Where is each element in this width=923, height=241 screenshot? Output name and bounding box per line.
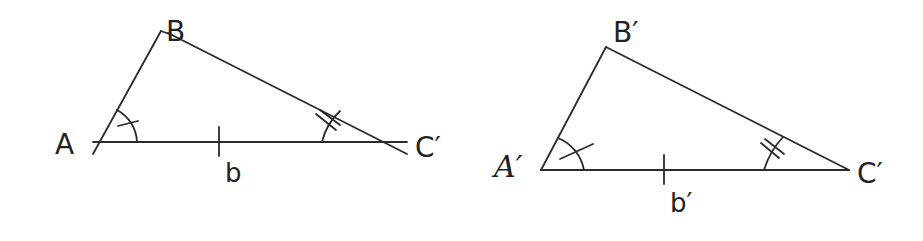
right-triangle	[541, 47, 849, 184]
angle-A'-tick	[560, 144, 593, 159]
side-B'C'	[606, 47, 849, 170]
vertex-label-B-prime: B′	[613, 19, 639, 47]
left-triangle	[93, 31, 407, 156]
side-A'B'	[541, 47, 606, 170]
side-label-b: b	[225, 160, 242, 186]
vertex-label-C: C′	[415, 134, 441, 162]
side-label-b-prime: b′	[670, 190, 692, 216]
side-BC	[168, 33, 407, 154]
vertex-label-A: A	[55, 131, 74, 159]
side-AB	[93, 31, 161, 154]
diagram-canvas	[0, 0, 923, 241]
angle-C'-tick-2	[765, 139, 784, 154]
angle-A-tick	[118, 121, 138, 126]
vertex-label-A-prime: A′	[494, 152, 522, 182]
vertex-label-C-prime: C′	[857, 160, 883, 188]
vertex-label-B: B	[166, 18, 185, 46]
